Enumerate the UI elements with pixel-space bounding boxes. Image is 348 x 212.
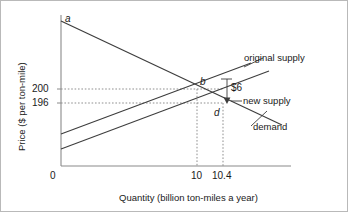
original-supply-curve [61, 63, 251, 134]
x-tick-label-10: 10 [191, 171, 202, 181]
price-gap-label: $6 [231, 83, 242, 93]
x-tick-label-10-4: 10.4 [212, 171, 231, 181]
supply-demand-figure: Price ($ per ton-mile) Quantity (billion… [0, 0, 348, 212]
new-supply-label: new supply [243, 96, 291, 106]
original-supply-label: original supply [244, 53, 305, 63]
demand-label: demand [253, 122, 287, 132]
point-label-d: d [214, 108, 220, 118]
y-tick-label-200: 200 [32, 84, 49, 94]
demand-curve [61, 21, 282, 125]
x-tick-label-0: 0 [50, 171, 56, 181]
y-axis-title: Price ($ per ton-mile) [17, 62, 27, 151]
point-label-b: b [200, 77, 206, 87]
y-tick-label-196: 196 [32, 98, 49, 108]
x-axis-title: Quantity (billion ton-miles a year) [119, 193, 258, 203]
point-label-a: a [65, 14, 71, 24]
